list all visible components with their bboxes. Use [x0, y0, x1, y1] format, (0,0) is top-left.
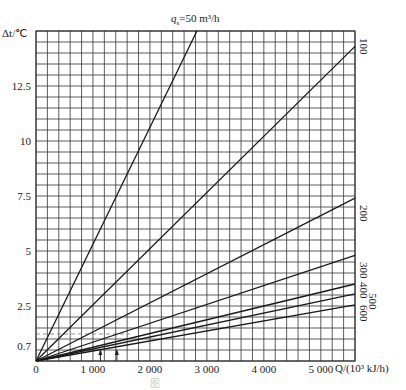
series-label-200: 200	[358, 205, 370, 222]
x-tick-label: 4 000	[251, 363, 276, 375]
y-tick-label: 10	[20, 135, 32, 147]
figure-caption-faded: 图	[150, 378, 160, 389]
chart-title: qs=50 m³/h	[171, 12, 220, 27]
y-tick-label: 5	[26, 245, 32, 257]
y-tick-label: 12.5	[12, 80, 32, 92]
y-tick-label: 0.7	[17, 340, 31, 352]
x-tick-label: 2 000	[138, 363, 163, 375]
series-label-600: 600	[358, 305, 370, 322]
x-axis-label: Q/(10³ kJ/h)	[335, 362, 389, 375]
x-tick-labels: 01 0002 0003 0004 0005 000	[33, 363, 333, 375]
x-tick-label: 1 000	[81, 363, 106, 375]
line-chart: 0.72.557.51012.5 01 0002 0003 0004 0005 …	[0, 0, 406, 390]
y-tick-labels: 0.72.557.51012.5	[12, 80, 32, 352]
chart-grid	[36, 31, 355, 361]
x-tick-label: 5 000	[308, 363, 333, 375]
series-end-labels: 100200300400500600	[358, 38, 379, 322]
y-tick-label: 2.5	[17, 300, 31, 312]
y-tick-label: 7.5	[17, 190, 31, 202]
x-tick-label: 3 000	[195, 363, 220, 375]
series-label-100: 100	[358, 38, 370, 55]
series-label-300: 300	[358, 262, 370, 279]
y-axis-label: Δt/℃	[2, 27, 27, 39]
x-tick-label: 0	[33, 363, 39, 375]
